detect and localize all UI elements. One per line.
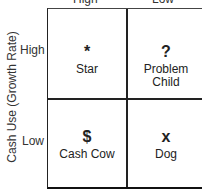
column-label-high: High (73, 0, 98, 6)
dollar-icon: $ (48, 128, 126, 146)
horizontal-divider (48, 98, 202, 100)
row-label-high: High (20, 43, 45, 57)
quadrant-label: Dog (127, 148, 202, 161)
question-mark-icon: ? (127, 43, 202, 61)
column-label-low: Low (152, 0, 174, 6)
row-label-low: Low (22, 134, 44, 148)
quadrant-grid: * Star ? Problem Child $ Cash Cow x Dog (47, 8, 202, 189)
x-icon: x (127, 128, 202, 146)
quadrant-label: Problem Child (140, 63, 192, 89)
quadrant-dog: x Dog (127, 128, 202, 161)
star-icon: * (48, 43, 126, 61)
quadrant-star: * Star (48, 43, 126, 76)
quadrant-problem-child: ? Problem Child (127, 43, 202, 89)
y-axis-title: Cash Use (Growth Rate) (5, 31, 19, 162)
quadrant-label: Cash Cow (48, 148, 126, 161)
quadrant-cash-cow: $ Cash Cow (48, 128, 126, 161)
quadrant-label: Star (48, 63, 126, 76)
